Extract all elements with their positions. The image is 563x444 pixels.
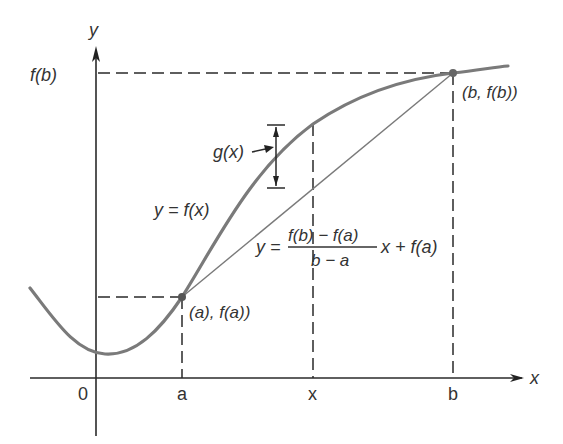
origin-label: 0 xyxy=(78,384,88,404)
secant-rhs: x + f(a) xyxy=(380,237,438,257)
x-axis-label: x xyxy=(529,368,540,388)
point-b-label: (b, f(b)) xyxy=(462,83,518,102)
secant-numerator: f(b) − f(a) xyxy=(288,226,358,245)
point-a-marker xyxy=(178,293,186,301)
secant-equation: y = f(b) − f(a) b − a x + f(a) xyxy=(254,226,438,270)
point-b-marker xyxy=(449,69,457,77)
guide-lines xyxy=(98,73,453,378)
point-a-label: (a), f(a)) xyxy=(189,303,250,322)
x-tick-a: a xyxy=(177,384,188,404)
x-tick-x: x xyxy=(308,384,317,404)
mean-value-diagram: y x 0 a x b f(b) (b, f(b)) (a), f(a)) g(… xyxy=(0,0,563,444)
y-axis-label: y xyxy=(87,20,99,40)
gx-label: g(x) xyxy=(213,142,244,162)
fb-tick-label: f(b) xyxy=(30,65,57,85)
secant-lhs: y = xyxy=(254,237,281,257)
x-tick-b: b xyxy=(448,384,458,404)
curve-label: y = f(x) xyxy=(152,200,210,220)
function-curve xyxy=(30,66,508,354)
secant-denominator: b − a xyxy=(311,251,349,270)
